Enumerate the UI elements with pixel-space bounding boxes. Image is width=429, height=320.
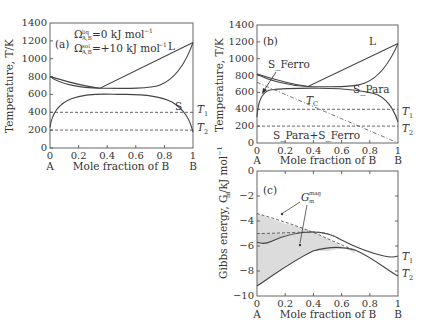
svg-text:−4: −4 bbox=[239, 215, 254, 226]
panel-c-gmag-label: G mag m bbox=[301, 190, 321, 204]
panel-a-label: (a) bbox=[55, 38, 69, 50]
panel-a-omega-liq: Ω liq A,B =0 kJ mol −1 bbox=[74, 27, 153, 41]
panel-c-label: (c) bbox=[263, 184, 277, 196]
panel-a-x-ticks: 0 0.2 0.4 0.6 0.8 1 bbox=[47, 145, 196, 161]
svg-text:C: C bbox=[313, 100, 318, 108]
panel-b-y-ticks: 0 200 400 600 800 1000 1200 1400 bbox=[229, 19, 260, 148]
svg-text:600: 600 bbox=[235, 86, 254, 97]
svg-text:−6: −6 bbox=[239, 240, 254, 251]
svg-text:Gibbs energy, G: Gibbs energy, G bbox=[217, 195, 229, 279]
panel-c-end-b: B bbox=[394, 308, 402, 320]
svg-text:−1: −1 bbox=[144, 27, 153, 34]
svg-text:−8: −8 bbox=[239, 265, 254, 276]
svg-text:1000: 1000 bbox=[229, 53, 254, 64]
svg-text:=0 kJ mol: =0 kJ mol bbox=[92, 28, 145, 40]
svg-text:1400: 1400 bbox=[22, 17, 47, 28]
svg-text:400: 400 bbox=[235, 103, 254, 114]
figure: 0 200 400 600 800 1000 1200 1400 0 0.2 0… bbox=[0, 0, 429, 320]
svg-text:1000: 1000 bbox=[22, 53, 47, 64]
panel-a-end-a: A bbox=[45, 160, 54, 172]
svg-text:2: 2 bbox=[409, 274, 413, 282]
svg-text:1: 1 bbox=[204, 110, 208, 118]
panel-c-xlabel: Mole fraction of B bbox=[280, 308, 377, 320]
panel-b-tc-label: T C bbox=[306, 94, 318, 108]
svg-text:2: 2 bbox=[409, 129, 413, 137]
svg-text:−2: −2 bbox=[239, 190, 254, 201]
svg-text:1: 1 bbox=[409, 112, 413, 120]
panel-c-t1-label: T 1 bbox=[402, 250, 413, 265]
panel-c: 0 −2 −4 −6 −8 −10 0 0.2 0.4 0.6 0.8 1 bbox=[216, 146, 413, 320]
panel-a-ylabel: Temperature, T/K bbox=[3, 39, 15, 133]
svg-text:−1: −1 bbox=[216, 146, 224, 156]
svg-text:200: 200 bbox=[28, 124, 47, 135]
svg-text:m: m bbox=[309, 198, 315, 204]
panel-c-end-a: A bbox=[252, 308, 261, 320]
panel-a-t2-label: T 2 bbox=[197, 121, 208, 136]
panel-b-mix-label: S_Para+S_Ferro bbox=[273, 129, 360, 142]
svg-text:400: 400 bbox=[28, 106, 47, 117]
svg-text:A,B: A,B bbox=[81, 49, 92, 55]
panel-a-end-b: B bbox=[189, 160, 197, 172]
svg-text:1200: 1200 bbox=[229, 36, 254, 47]
panel-a-phase-l: L bbox=[168, 40, 175, 52]
panel-a-y-ticks: 0 200 400 600 800 1000 1200 1400 bbox=[22, 17, 53, 153]
panel-b-s-ferro: S_Ferro bbox=[268, 58, 310, 71]
panel-b-label: (b) bbox=[263, 35, 278, 47]
svg-text:800: 800 bbox=[235, 70, 254, 81]
panel-a: 0 200 400 600 800 1000 1200 1400 0 0.2 0… bbox=[3, 17, 208, 172]
panel-c-t2-label: T 2 bbox=[402, 267, 413, 282]
svg-text:/kJ mol: /kJ mol bbox=[217, 155, 229, 193]
svg-text:mag: mag bbox=[309, 190, 321, 197]
panel-b-s-para: S_Para bbox=[353, 83, 390, 96]
panel-a-phase-s: S bbox=[175, 100, 182, 112]
panel-a-t1-label: T 1 bbox=[197, 103, 208, 118]
panel-b-t2-label: T 2 bbox=[402, 122, 413, 137]
svg-text:A,B: A,B bbox=[81, 35, 92, 41]
panel-a-omega-sol: Ω sol A,B =+10 kJ mol −1 bbox=[74, 41, 167, 55]
panel-a-xlabel: Mole fraction of B bbox=[73, 160, 170, 172]
panel-b-t1-label: T 1 bbox=[402, 105, 413, 120]
panel-c-shade-t2 bbox=[257, 214, 355, 287]
panel-c-ylabel: Gibbs energy, G m /kJ mol −1 bbox=[216, 146, 232, 279]
svg-text:−1: −1 bbox=[158, 41, 167, 48]
svg-text:800: 800 bbox=[28, 71, 47, 82]
svg-text:0: 0 bbox=[248, 165, 254, 176]
panel-b-xlabel: Mole fraction of B bbox=[280, 154, 377, 166]
panel-b-ylabel: Temperature, T/K bbox=[213, 38, 225, 132]
svg-text:−10: −10 bbox=[233, 290, 254, 301]
panel-b: 0 200 400 600 800 1000 1200 1400 0 0.2 0… bbox=[213, 19, 413, 166]
svg-text:1400: 1400 bbox=[229, 19, 254, 30]
panel-b-phase-l: L bbox=[369, 35, 376, 47]
svg-text:2: 2 bbox=[204, 128, 208, 136]
svg-text:=+10 kJ mol: =+10 kJ mol bbox=[92, 42, 160, 54]
panel-b-end-b: B bbox=[394, 154, 402, 166]
svg-text:200: 200 bbox=[235, 120, 254, 131]
svg-text:1200: 1200 bbox=[22, 35, 47, 46]
svg-text:1: 1 bbox=[409, 257, 413, 265]
panel-a-miscibility-gap bbox=[50, 94, 193, 132]
svg-text:600: 600 bbox=[28, 88, 47, 99]
